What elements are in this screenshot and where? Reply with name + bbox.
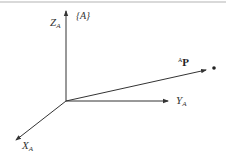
z-axis-label-sub: A (55, 22, 61, 30)
y-axis-label: YA (176, 94, 187, 108)
z-axis-label: ZA (50, 16, 61, 30)
x-axis-label: XA (21, 139, 34, 153)
vector-label: AP (178, 56, 189, 68)
position-vector (66, 70, 206, 101)
vector-label-main: P (182, 56, 189, 68)
frame-label: {A} (76, 10, 90, 21)
x-axis (16, 101, 66, 140)
coordinate-frame-diagram: {A} ZA YA XA AP (0, 0, 226, 163)
x-axis-label-sub: A (28, 145, 34, 153)
y-axis-label-sub: A (181, 100, 187, 108)
point-p (212, 66, 216, 70)
